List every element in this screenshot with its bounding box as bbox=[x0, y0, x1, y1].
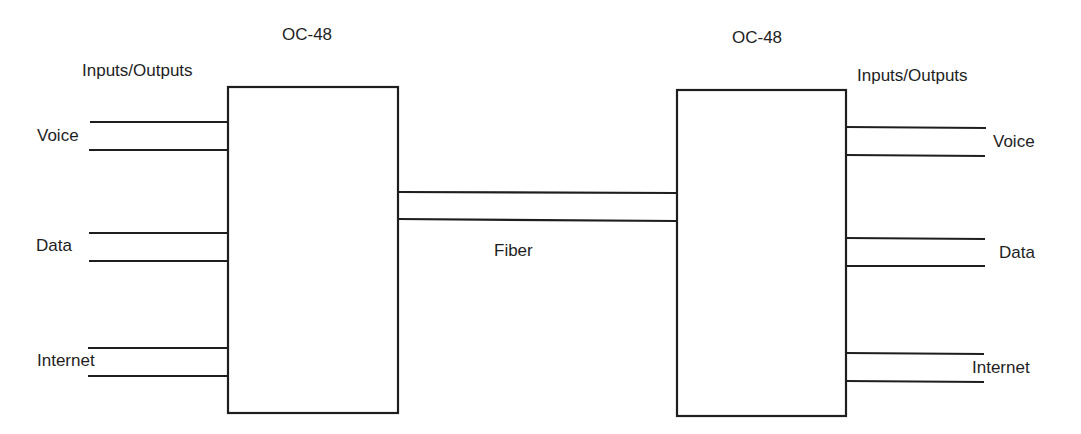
right-data-label: Data bbox=[999, 244, 1035, 261]
left-data-label: Data bbox=[36, 237, 72, 254]
right-voice-line-bottom bbox=[846, 155, 985, 156]
right-internet-label: Internet bbox=[972, 359, 1030, 376]
left-internet-label: Internet bbox=[37, 352, 95, 369]
left-node-title: OC-48 bbox=[282, 26, 332, 43]
right-voice-label: Voice bbox=[993, 133, 1035, 150]
right-internet-line-top bbox=[846, 353, 984, 354]
right-internet-line-bottom bbox=[846, 381, 984, 382]
fiber-line-top bbox=[398, 192, 677, 193]
right-data-line-top bbox=[846, 238, 985, 239]
left-oc48-box bbox=[228, 87, 398, 413]
fiber-label: Fiber bbox=[494, 242, 533, 259]
left-voice-label: Voice bbox=[37, 127, 79, 144]
right-io-label: Inputs/Outputs bbox=[857, 67, 968, 84]
right-voice-line-top bbox=[846, 127, 986, 128]
fiber-line-bottom bbox=[398, 219, 677, 221]
right-node-title: OC-48 bbox=[732, 29, 782, 46]
left-io-label: Inputs/Outputs bbox=[82, 62, 193, 79]
right-oc48-box bbox=[677, 90, 846, 416]
